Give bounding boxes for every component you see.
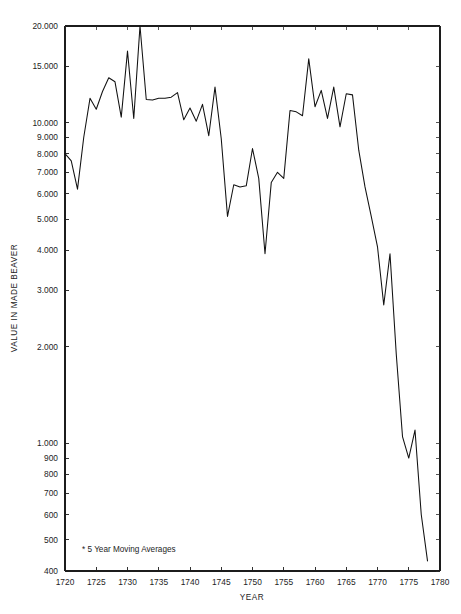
y-tick-label: 5.000 [37,214,58,224]
plot-frame [65,26,440,571]
x-tick-label: 1720 [56,577,75,587]
y-tick-label: 600 [44,510,58,520]
x-tick-label: 1780 [431,577,450,587]
x-axis-title: YEAR [240,593,265,602]
x-tick-label: 1750 [243,577,262,587]
data-series-line [65,26,428,561]
y-tick-label: 15.000 [32,61,58,71]
y-tick-label: 4.000 [37,245,58,255]
y-tick-label: 700 [44,488,58,498]
y-tick-label: 6.000 [37,189,58,199]
y-tick-label: 500 [44,535,58,545]
x-tick-label: 1740 [181,577,200,587]
y-tick-label: 10.000 [32,118,58,128]
y-axis-ticks-right [436,26,440,571]
moving-average-note: * 5 Year Moving Averages [82,545,176,554]
x-tick-label: 1730 [118,577,137,587]
x-tick-label: 1765 [337,577,356,587]
y-tick-label: 800 [44,469,58,479]
x-tick-label: 1760 [306,577,325,587]
x-tick-label: 1745 [212,577,231,587]
y-tick-label: 9.000 [37,132,58,142]
y-axis-ticks: 20.00015.00010.0009.0008.0007.0006.0005.… [32,21,69,576]
y-tick-label: 400 [44,566,58,576]
x-tick-label: 1725 [87,577,106,587]
y-tick-label: 900 [44,453,58,463]
x-axis-ticks-top [65,26,440,30]
y-tick-label: 20.000 [32,21,58,31]
x-axis-ticks: 1720172517301735174017451750175517601765… [56,567,450,587]
y-tick-label: 3.000 [37,285,58,295]
y-tick-label: 1.000 [37,438,58,448]
x-tick-label: 1735 [149,577,168,587]
y-tick-label: 7.000 [37,167,58,177]
x-tick-label: 1770 [368,577,387,587]
y-tick-label: 8.000 [37,149,58,159]
y-tick-label: 2.000 [37,342,58,352]
x-tick-label: 1755 [274,577,293,587]
line-chart-canvas: 20.00015.00010.0009.0008.0007.0006.0005.… [0,0,461,614]
x-tick-label: 1775 [399,577,418,587]
chart-figure: 20.00015.00010.0009.0008.0007.0006.0005.… [0,0,461,614]
y-axis-title: VALUE IN MADE BEAVER [10,244,19,353]
